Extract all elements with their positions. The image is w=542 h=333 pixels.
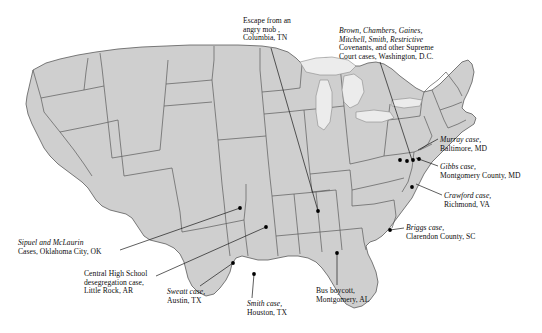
label-sipuel-mclaurin-cases-oklahoma-city-ok: Sipuel and McLaurinCases, Oklahoma City,… xyxy=(18,239,102,256)
label-sweatt-case-austin-tx: Sweatt case,Austin, TX xyxy=(167,288,205,305)
marker-richmond-va xyxy=(410,185,414,189)
label-line: Montgomery, AL xyxy=(316,295,369,304)
label-escape-angry-mob-columbia-tn: Escape from anangry mob ,Columbia, TN xyxy=(243,17,291,43)
label-central-high-school-little-rock-ar: Central High Schooldesegregation case,Li… xyxy=(84,270,147,296)
leader-smith xyxy=(252,274,254,298)
label-supreme-court-cases-washington-dc: Brown, Chambers, Gaines,Mitchell, Smith,… xyxy=(339,27,434,61)
map-figure: Escape from anangry mob ,Columbia, TN Br… xyxy=(0,0,542,333)
leader-crawford xyxy=(416,184,442,195)
label-line: Houston, TX xyxy=(247,308,287,317)
marker-austin-tx xyxy=(231,261,235,265)
marker-little-rock-ar xyxy=(264,225,268,229)
label-line: Austin, TX xyxy=(167,296,202,305)
marker-washington-dc xyxy=(405,159,409,163)
lake-ontario xyxy=(392,98,422,108)
label-line: Little Rock, AR xyxy=(84,286,133,295)
lake-michigan xyxy=(316,80,332,130)
label-bus-boycott-montgomery-al: Bus boycott,Montgomery, AL xyxy=(316,287,369,304)
label-smith-case-houston-tx: Smith case,Houston, TX xyxy=(247,300,287,317)
marker-clarendon-county-sc xyxy=(388,228,392,232)
label-gibbs-case-montgomery-county-md: Gibbs case,Montgomery County, MD xyxy=(440,163,521,180)
label-murray-case-baltimore-md: Murray case,Baltimore, MD xyxy=(440,136,487,153)
label-line: Court cases, Washington, D.C. xyxy=(339,52,434,61)
marker-columbia-tn xyxy=(316,209,320,213)
marker-dc-cluster-east xyxy=(417,157,421,161)
label-line: Clarendon County, SC xyxy=(406,232,475,241)
marker-oklahoma-city-ok xyxy=(238,206,242,210)
marker-baltimore-md xyxy=(411,158,415,162)
lake-erie xyxy=(356,110,394,122)
label-line: Richmond, VA xyxy=(444,200,490,209)
label-line: Cases, Oklahoma City, OK xyxy=(18,247,102,256)
leader-briggs xyxy=(390,228,404,230)
label-line: Columbia, TN xyxy=(243,33,287,42)
marker-montgomery-county-md xyxy=(398,158,402,162)
label-crawford-case-richmond-va: Crawford case,Richmond, VA xyxy=(444,192,491,209)
label-line: Baltimore, MD xyxy=(440,144,487,153)
label-line: Montgomery County, MD xyxy=(440,171,521,180)
label-briggs-case-clarendon-county-sc: Briggs case,Clarendon County, SC xyxy=(406,224,475,241)
marker-houston-tx xyxy=(252,272,256,276)
marker-montgomery-al xyxy=(335,251,339,255)
